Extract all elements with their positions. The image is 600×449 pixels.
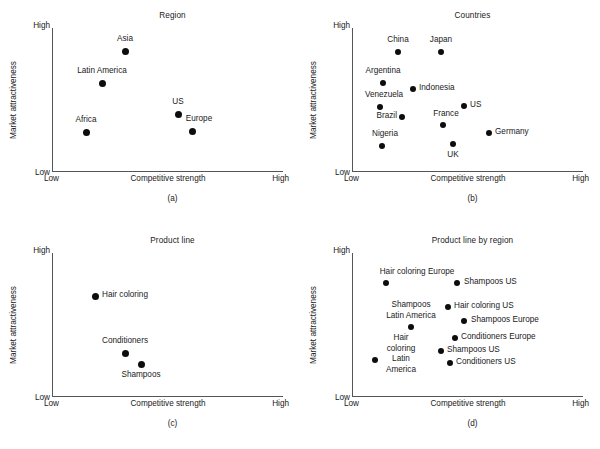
market-attractiveness-matrix-figure: Region High Low Market attractiveness Lo… bbox=[0, 0, 600, 449]
data-point-hair-coloring-latin-america[interactable] bbox=[372, 357, 378, 363]
data-label-us: US bbox=[470, 100, 481, 111]
panel-c-title: Product line bbox=[60, 236, 285, 245]
data-point-france[interactable] bbox=[440, 122, 446, 128]
data-point-hair-coloring[interactable] bbox=[92, 293, 99, 300]
data-label-hair-coloring: Hair coloring bbox=[102, 290, 148, 301]
data-label-conditioners: Conditioners bbox=[102, 336, 148, 347]
panel-d-plot-area: High Low Market attractiveness Low Compe… bbox=[352, 253, 583, 397]
data-point-asia[interactable] bbox=[122, 48, 129, 55]
data-point-europe[interactable] bbox=[189, 128, 196, 135]
data-label-latin-america: Latin America bbox=[77, 66, 127, 77]
data-point-us[interactable] bbox=[461, 103, 467, 109]
panel-d-caption: (d) bbox=[360, 419, 585, 428]
data-point-japan[interactable] bbox=[438, 49, 444, 55]
data-label-germany: Germany bbox=[495, 127, 529, 138]
data-label-brazil: Brazil bbox=[377, 111, 397, 122]
data-label-shampoos: Shampoos bbox=[121, 370, 160, 381]
data-label-nigeria: Nigeria bbox=[372, 129, 398, 140]
panel-c-caption: (c) bbox=[60, 419, 285, 428]
panel-a-title: Region bbox=[60, 11, 285, 20]
panel-a-region: Region High Low Market attractiveness Lo… bbox=[0, 0, 300, 224]
panel-a-x-axis-high-label: High bbox=[272, 174, 289, 183]
panel-b-x-axis-title: Competitive strength bbox=[430, 174, 505, 183]
data-point-venezuela[interactable] bbox=[377, 104, 383, 110]
panel-b-countries: Countries High Low Market attractiveness… bbox=[300, 0, 600, 224]
data-point-us[interactable] bbox=[175, 111, 182, 118]
panel-c-x-axis-high-label: High bbox=[272, 399, 289, 408]
data-label-hair-coloring-europe: Hair coloring Europe bbox=[380, 267, 455, 278]
data-point-africa[interactable] bbox=[83, 129, 90, 136]
panel-a-x-axis-low-label: Low bbox=[44, 174, 59, 183]
panel-a-y-axis-high-label: High bbox=[33, 21, 50, 30]
data-point-hair-coloring-us[interactable] bbox=[445, 304, 451, 310]
data-label-conditioners-europe: Conditioners Europe bbox=[461, 332, 536, 343]
panel-d-x-axis-high-label: High bbox=[572, 399, 589, 408]
data-point-uk[interactable] bbox=[450, 141, 456, 147]
data-label-hair-coloring-latin-america: Hair coloring Latin America bbox=[386, 333, 416, 375]
panel-a-y-axis-title: Market attractiveness bbox=[9, 61, 18, 139]
data-point-shampoos[interactable] bbox=[138, 361, 145, 368]
data-point-argentina[interactable] bbox=[380, 80, 386, 86]
panel-b-x-axis-high-label: High bbox=[572, 174, 589, 183]
data-label-argentina: Argentina bbox=[365, 66, 400, 77]
panel-c-product-line: Product line High Low Market attractiven… bbox=[0, 225, 300, 449]
data-label-shampoos-europe: Shampoos Europe bbox=[471, 315, 539, 326]
data-label-indonesia: Indonesia bbox=[419, 83, 455, 94]
panel-d-x-axis-low-label: Low bbox=[344, 399, 359, 408]
panel-b-plot-area: High Low Market attractiveness Low Compe… bbox=[352, 28, 583, 172]
data-label-japan: Japan bbox=[430, 35, 452, 46]
panel-d-product-line-by-region: Product line by region High Low Market a… bbox=[300, 225, 600, 449]
panel-d-y-axis-high-label: High bbox=[333, 246, 350, 255]
data-point-hair-coloring-europe[interactable] bbox=[383, 280, 389, 286]
panel-a-caption: (a) bbox=[60, 194, 285, 203]
data-point-conditioners[interactable] bbox=[122, 350, 129, 357]
data-point-nigeria[interactable] bbox=[379, 143, 385, 149]
data-point-conditioners-europe[interactable] bbox=[452, 335, 458, 341]
panel-b-y-axis-high-label: High bbox=[333, 21, 350, 30]
panel-a-plot-area: High Low Market attractiveness Low Compe… bbox=[52, 28, 283, 172]
panel-b-x-axis-low-label: Low bbox=[344, 174, 359, 183]
data-label-conditioners-us: Conditioners US bbox=[456, 357, 516, 368]
data-label-shampoos-latin-america: Shampoos Latin America bbox=[386, 300, 436, 321]
data-point-indonesia[interactable] bbox=[410, 86, 416, 92]
panel-d-x-axis-title: Competitive strength bbox=[430, 399, 505, 408]
panel-b-caption: (b) bbox=[360, 194, 585, 203]
data-label-france: France bbox=[433, 109, 458, 120]
data-point-shampoos-us-lower[interactable] bbox=[438, 348, 444, 354]
data-label-shampoos-us-top: Shampoos US bbox=[464, 277, 517, 288]
data-point-germany[interactable] bbox=[486, 130, 492, 136]
panel-a-x-axis-title: Competitive strength bbox=[130, 174, 205, 183]
data-point-shampoos-latin-america[interactable] bbox=[408, 324, 414, 330]
data-point-shampoos-us-top[interactable] bbox=[454, 280, 460, 286]
data-label-uk: UK bbox=[447, 150, 458, 161]
data-point-china[interactable] bbox=[395, 49, 401, 55]
data-label-hair-coloring-us: Hair coloring US bbox=[454, 301, 514, 312]
panel-c-plot-area: High Low Market attractiveness Low Compe… bbox=[52, 253, 283, 397]
data-point-latin-america[interactable] bbox=[99, 80, 106, 87]
panel-d-title: Product line by region bbox=[360, 236, 585, 245]
data-label-us: US bbox=[172, 97, 183, 108]
data-label-europe: Europe bbox=[186, 114, 212, 125]
panel-c-y-axis-title: Market attractiveness bbox=[9, 286, 18, 364]
data-label-africa: Africa bbox=[76, 115, 97, 126]
data-point-conditioners-us[interactable] bbox=[447, 360, 453, 366]
data-label-venezuela: Venezuela bbox=[365, 90, 403, 101]
data-point-shampoos-europe[interactable] bbox=[461, 318, 467, 324]
data-label-china: China bbox=[387, 35, 408, 46]
panel-c-y-axis-high-label: High bbox=[33, 246, 50, 255]
panel-b-y-axis-title: Market attractiveness bbox=[309, 61, 318, 139]
data-label-asia: Asia bbox=[117, 34, 133, 45]
panel-c-x-axis-low-label: Low bbox=[44, 399, 59, 408]
panel-c-x-axis-title: Competitive strength bbox=[130, 399, 205, 408]
panel-d-y-axis-title: Market attractiveness bbox=[309, 286, 318, 364]
data-label-shampoos-us-lower: Shampoos US bbox=[447, 345, 500, 356]
panel-b-title: Countries bbox=[360, 11, 585, 20]
data-point-brazil[interactable] bbox=[399, 114, 405, 120]
